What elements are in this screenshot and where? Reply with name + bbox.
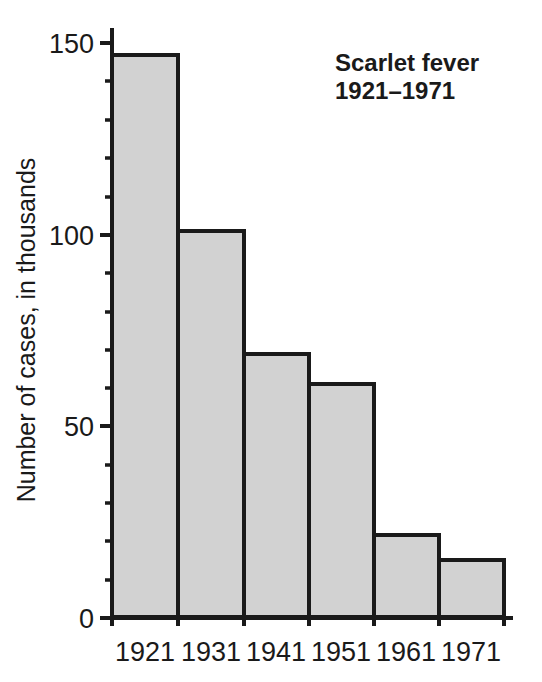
chart-title-line1: Scarlet fever xyxy=(335,49,479,76)
bar-1961[interactable] xyxy=(374,535,439,617)
y-tick-label-0: 0 xyxy=(79,604,94,634)
x-tick-label-1971: 1971 xyxy=(441,637,501,667)
chart-title-line2: 1921–1971 xyxy=(335,77,455,104)
bar-1951[interactable] xyxy=(309,384,374,617)
y-axis-title: Number of cases, in thousands xyxy=(12,158,40,503)
y-tick-label-50: 50 xyxy=(64,412,94,442)
y-tick-label-150: 150 xyxy=(49,29,94,59)
scarlet-fever-bar-chart: 150 100 50 0 1921 1931 1941 1951 1961 19… xyxy=(0,0,542,682)
x-tick-label-1921: 1921 xyxy=(115,637,175,667)
x-tick-label-1951: 1951 xyxy=(311,637,371,667)
bar-1971[interactable] xyxy=(439,560,504,617)
x-tick-label-1961: 1961 xyxy=(376,637,436,667)
chart-page: 150 100 50 0 1921 1931 1941 1951 1961 19… xyxy=(0,0,542,682)
bar-1921[interactable] xyxy=(112,55,178,617)
x-tick-label-1941: 1941 xyxy=(246,637,306,667)
bar-1941[interactable] xyxy=(244,354,309,617)
x-tick-label-1931: 1931 xyxy=(181,637,241,667)
y-tick-label-100: 100 xyxy=(49,221,94,251)
bar-1931[interactable] xyxy=(178,231,244,617)
